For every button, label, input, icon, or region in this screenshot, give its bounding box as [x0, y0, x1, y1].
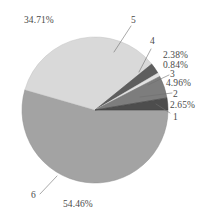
slice-label-index-2: 2 [173, 90, 178, 100]
slice-label-percent-2: 4.96% [166, 79, 191, 89]
slice-label-index-1: 1 [173, 113, 178, 123]
slice-label-percent-5: 34.71% [24, 16, 54, 26]
slice-label-percent-3: 0.84% [163, 61, 188, 71]
slice-label-index-5: 5 [131, 16, 136, 26]
leader-line-6 [40, 176, 57, 194]
slice-label-index-4: 4 [150, 37, 155, 47]
slice-label-percent-6: 54.46% [63, 200, 93, 210]
slice-label-index-6: 6 [31, 191, 36, 201]
pie-chart-figure: 34.71% 5 4 2.38% 0.84% 3 4.96% 2 2.65% 1… [0, 0, 209, 217]
slice-label-percent-1: 2.65% [170, 101, 195, 111]
